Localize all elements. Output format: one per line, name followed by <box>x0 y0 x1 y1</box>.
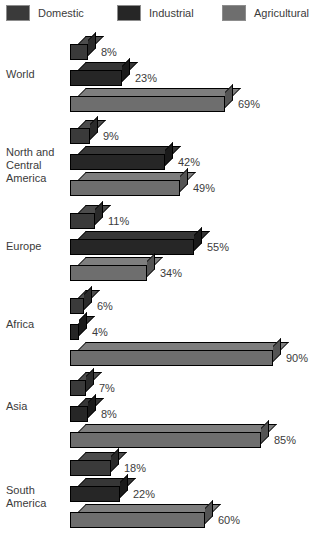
bar-top-face <box>78 342 289 350</box>
bar-value-label: 11% <box>108 215 129 228</box>
bar-industrial[interactable]: 22% <box>70 478 128 502</box>
bar-domestic[interactable]: 6% <box>70 290 92 314</box>
bar-front-face <box>70 406 88 422</box>
bar-front-face <box>70 70 122 86</box>
bar-value-label: 22% <box>133 488 155 501</box>
bar-front-face <box>70 239 194 255</box>
legend-swatch-domestic <box>6 5 30 21</box>
category-label: Africa <box>6 318 34 331</box>
bar-front-face <box>70 213 95 229</box>
bar-front-face <box>70 324 79 340</box>
category-label: South America <box>6 484 46 510</box>
bar-value-label: 9% <box>103 130 119 143</box>
bar-top-face <box>78 504 221 512</box>
bar-group: South America18%22%60% <box>0 452 315 530</box>
bar-front-face <box>70 432 261 448</box>
bar-domestic[interactable]: 8% <box>70 36 96 60</box>
bar-industrial[interactable]: 55% <box>70 231 202 255</box>
bar-front-face <box>70 180 180 196</box>
bar-domestic[interactable]: 11% <box>70 205 103 229</box>
bar-industrial[interactable]: 4% <box>70 316 87 340</box>
bar-agricultural[interactable]: 90% <box>70 342 281 366</box>
bar-side-face <box>79 312 87 336</box>
bar-value-label: 60% <box>218 514 240 527</box>
bar-chart: Domestic Industrial Agricultural World8%… <box>0 0 315 535</box>
bar-value-label: 34% <box>160 267 182 280</box>
bar-front-face <box>70 154 165 170</box>
bar-top-face <box>78 452 127 460</box>
bar-value-label: 49% <box>193 182 215 195</box>
bar-top-face <box>78 88 241 96</box>
bar-group: World8%23%69% <box>0 36 315 114</box>
bar-front-face <box>70 44 88 60</box>
bar-front-face <box>70 96 225 112</box>
bar-front-face <box>70 350 273 366</box>
legend-label-agricultural: Agricultural <box>254 4 309 22</box>
bar-domestic[interactable]: 7% <box>70 372 94 396</box>
bar-value-label: 42% <box>178 156 200 169</box>
bar-industrial[interactable]: 8% <box>70 398 96 422</box>
bar-top-face <box>78 424 277 432</box>
bar-agricultural[interactable]: 60% <box>70 504 213 528</box>
bar-front-face <box>70 486 120 502</box>
bar-top-face <box>78 231 210 239</box>
bar-value-label: 69% <box>238 98 260 111</box>
bar-value-label: 7% <box>99 382 115 395</box>
bar-value-label: 55% <box>207 241 229 254</box>
bar-value-label: 4% <box>92 326 108 339</box>
bar-front-face <box>70 460 111 476</box>
category-label: World <box>6 68 35 81</box>
legend-label-industrial: Industrial <box>149 4 194 22</box>
bar-domestic[interactable]: 18% <box>70 452 119 476</box>
bar-front-face <box>70 298 84 314</box>
bar-group: Europe11%55%34% <box>0 205 315 283</box>
category-label: North and Central America <box>6 146 54 185</box>
bar-group: Africa6%4%90% <box>0 290 315 368</box>
legend-swatch-industrial <box>117 5 141 21</box>
legend-label-domestic: Domestic <box>38 4 84 22</box>
bar-group: North and Central America9%42%49% <box>0 120 315 198</box>
bar-front-face <box>70 512 205 528</box>
chart-legend: Domestic Industrial Agricultural <box>0 0 315 28</box>
bar-agricultural[interactable]: 85% <box>70 424 269 448</box>
bar-front-face <box>70 380 86 396</box>
bar-top-face <box>78 172 196 180</box>
bar-domestic[interactable]: 9% <box>70 120 98 144</box>
bar-value-label: 90% <box>286 352 308 365</box>
bar-value-label: 8% <box>101 408 117 421</box>
bar-value-label: 8% <box>101 46 117 59</box>
bar-agricultural[interactable]: 34% <box>70 257 155 281</box>
bar-industrial[interactable]: 23% <box>70 62 130 86</box>
legend-swatch-agricultural <box>222 5 246 21</box>
bar-agricultural[interactable]: 69% <box>70 88 233 112</box>
bar-front-face <box>70 265 147 281</box>
bar-front-face <box>70 128 90 144</box>
bar-group: Asia7%8%85% <box>0 372 315 450</box>
category-label: Europe <box>6 240 41 253</box>
bar-value-label: 85% <box>274 434 296 447</box>
bar-agricultural[interactable]: 49% <box>70 172 188 196</box>
bar-value-label: 6% <box>97 300 113 313</box>
bar-industrial[interactable]: 42% <box>70 146 173 170</box>
category-label: Asia <box>6 400 27 413</box>
bar-value-label: 23% <box>135 72 157 85</box>
